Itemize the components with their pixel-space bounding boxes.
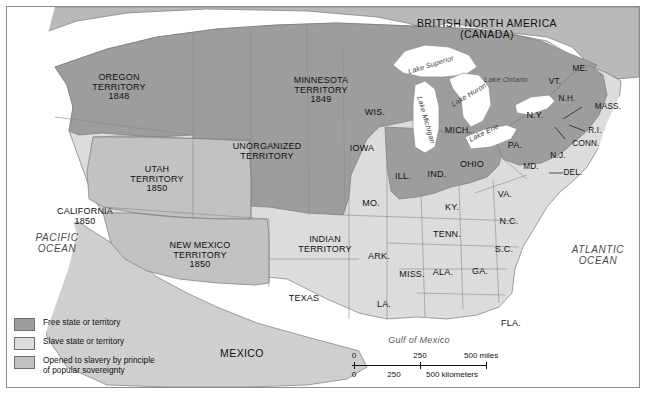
legend-item-free: Free state or territory xyxy=(14,317,186,331)
scale-kilometers: 0 250 500 kilometers xyxy=(352,370,532,388)
map-legend: Free state or territory Slave state or t… xyxy=(14,317,186,380)
scale-km-tick-500: 500 kilometers xyxy=(426,370,478,379)
legend-swatch-slave xyxy=(14,337,35,350)
scale-km-tick-0: 0 xyxy=(352,370,356,379)
scale-miles: 0 250 500 miles xyxy=(352,351,532,370)
legend-item-slave: Slave state or territory xyxy=(14,336,186,350)
scale-miles-tick-0: 0 xyxy=(352,351,356,360)
scale-km-tick-250: 250 xyxy=(387,370,400,379)
legend-label-free: Free state or territory xyxy=(43,317,120,327)
region-utah-territory xyxy=(87,136,251,219)
legend-label-popular-sovereignty: Opened to slavery by principle of popula… xyxy=(43,355,155,375)
legend-swatch-popular-sovereignty xyxy=(14,356,35,369)
map-scale-bars: 0 250 500 miles 0 250 500 kilometers xyxy=(352,351,532,388)
historical-map: BRITISH NORTH AMERICA (CANADA) MEXICO PA… xyxy=(0,0,646,394)
scale-miles-tick-250: 250 xyxy=(413,351,426,360)
lake-michigan xyxy=(413,81,439,153)
map-frame: BRITISH NORTH AMERICA (CANADA) MEXICO PA… xyxy=(6,6,640,388)
scale-miles-tick-500: 500 miles xyxy=(464,351,498,360)
legend-label-slave: Slave state or territory xyxy=(43,336,124,346)
legend-swatch-free xyxy=(14,318,35,331)
legend-item-popular-sovereignty: Opened to slavery by principle of popula… xyxy=(14,355,186,375)
